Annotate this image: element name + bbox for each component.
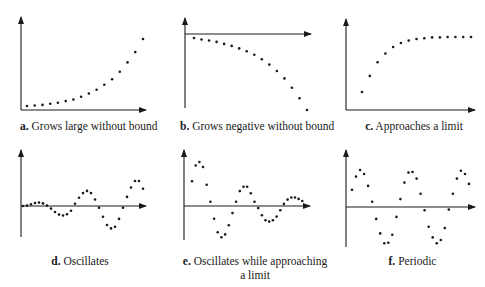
- caption-e: e. Oscillates while approaching a limit: [180, 254, 330, 282]
- data-point: [209, 200, 212, 203]
- data-point: [88, 92, 91, 95]
- data-point: [41, 104, 44, 107]
- data-point: [202, 166, 205, 169]
- data-point: [351, 189, 354, 192]
- data-point: [276, 70, 279, 73]
- plot-f-periodic: [346, 150, 475, 247]
- data-point: [283, 77, 286, 80]
- caption-e-letter: e.: [183, 255, 191, 267]
- data-point: [470, 36, 473, 39]
- caption-f-text: Periodic: [398, 255, 436, 267]
- data-point: [220, 236, 223, 239]
- data-point: [111, 78, 114, 81]
- data-point: [261, 58, 264, 61]
- data-point: [395, 216, 398, 219]
- data-point: [298, 97, 301, 100]
- data-point: [64, 100, 67, 103]
- data-point: [134, 51, 137, 54]
- data-point: [411, 171, 414, 174]
- plot-e-oscillates-approaching-limit: [184, 150, 310, 240]
- data-point: [42, 202, 45, 205]
- plot-d-oscillates: [21, 150, 146, 237]
- data-point: [392, 46, 395, 49]
- data-point: [215, 41, 218, 44]
- data-point: [72, 98, 75, 101]
- data-point: [106, 224, 109, 227]
- data-point: [403, 181, 406, 184]
- data-point: [460, 169, 463, 172]
- data-point: [110, 227, 113, 230]
- data-point: [231, 212, 234, 215]
- data-point: [78, 197, 81, 200]
- data-point: [268, 63, 271, 66]
- caption-d-letter: d.: [51, 255, 60, 267]
- data-point: [367, 185, 370, 188]
- data-point: [306, 109, 309, 112]
- data-point: [272, 219, 275, 222]
- data-point: [423, 37, 426, 40]
- data-point: [26, 105, 29, 108]
- data-point: [22, 205, 25, 208]
- data-point: [191, 180, 194, 183]
- data-point: [305, 205, 308, 208]
- data-point: [376, 61, 379, 64]
- data-point: [268, 220, 271, 223]
- caption-d: d. Oscillates: [20, 254, 140, 268]
- caption-c: c. Approaches a limit: [350, 119, 478, 133]
- data-point: [126, 196, 129, 199]
- data-point: [33, 104, 36, 107]
- data-point: [448, 208, 451, 211]
- caption-a-letter: a.: [20, 120, 29, 132]
- caption-d-text: Oscillates: [63, 255, 108, 267]
- data-point: [253, 54, 256, 57]
- data-point: [371, 200, 374, 203]
- plots-canvas: [0, 0, 485, 287]
- data-point: [245, 50, 248, 53]
- data-point: [224, 233, 227, 236]
- data-point: [290, 196, 293, 199]
- data-point: [464, 173, 467, 176]
- data-point: [415, 177, 418, 180]
- data-point: [118, 218, 121, 221]
- data-point: [134, 180, 137, 183]
- plot-a-grows-large: [21, 17, 146, 110]
- data-point: [235, 200, 238, 203]
- data-point: [70, 209, 73, 212]
- data-point: [142, 188, 145, 191]
- data-point: [49, 103, 52, 106]
- caption-a-text: Grows large without bound: [32, 120, 158, 132]
- data-point: [440, 239, 443, 242]
- caption-c-text: Approaches a limit: [375, 120, 463, 132]
- data-point: [407, 171, 410, 174]
- data-point: [26, 204, 29, 207]
- data-point: [46, 204, 49, 207]
- data-point: [103, 84, 106, 87]
- data-point: [387, 241, 390, 244]
- data-point: [216, 231, 219, 234]
- data-point: [205, 183, 208, 186]
- data-point: [238, 47, 241, 50]
- data-point: [301, 200, 304, 203]
- data-point: [264, 219, 267, 222]
- data-point: [62, 214, 65, 217]
- data-point: [130, 186, 133, 189]
- data-point: [90, 192, 93, 195]
- data-point: [250, 192, 253, 195]
- data-point: [283, 203, 286, 206]
- data-point: [126, 61, 129, 64]
- data-point: [138, 180, 141, 183]
- caption-c-letter: c.: [365, 120, 373, 132]
- data-point: [34, 202, 37, 205]
- data-point: [435, 242, 438, 245]
- data-point: [452, 193, 455, 196]
- data-point: [94, 198, 97, 201]
- data-point: [208, 39, 211, 42]
- data-point: [400, 42, 403, 45]
- data-point: [361, 91, 364, 94]
- data-point: [279, 209, 282, 212]
- data-point: [119, 70, 122, 73]
- data-point: [468, 183, 471, 186]
- plot-b-grows-negative: [185, 18, 311, 111]
- figure-function-behaviors: a. Grows large without bound b. Grows ne…: [0, 0, 485, 287]
- caption-b: b. Grows negative without bound: [180, 119, 330, 133]
